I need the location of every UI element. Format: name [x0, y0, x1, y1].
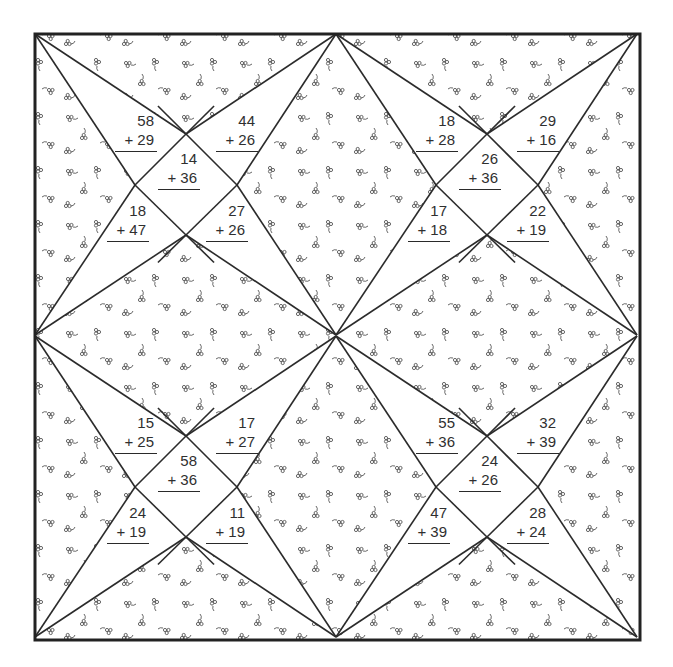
- answer-line: [517, 453, 559, 454]
- addend-bottom: + 39: [517, 432, 559, 451]
- addend-top: 55: [416, 413, 458, 432]
- answer-line: [206, 241, 248, 242]
- addition-problem: 15+ 25: [115, 413, 157, 454]
- answer-line: [158, 189, 200, 190]
- addend-bottom: + 28: [416, 130, 458, 149]
- answer-line: [158, 491, 200, 492]
- addition-problem: 58+ 29: [115, 111, 157, 152]
- addend-bottom: + 26: [216, 130, 258, 149]
- answer-line: [408, 241, 450, 242]
- addend-bottom: + 36: [459, 168, 501, 187]
- answer-line: [107, 241, 149, 242]
- addition-problem: 24+ 19: [107, 503, 149, 544]
- addend-top: 58: [158, 451, 200, 470]
- addend-bottom: + 27: [216, 432, 258, 451]
- addend-bottom: + 26: [459, 470, 501, 489]
- addition-problem: 55+ 36: [416, 413, 458, 454]
- addend-top: 15: [115, 413, 157, 432]
- addend-bottom: + 16: [517, 130, 559, 149]
- answer-line: [115, 453, 157, 454]
- addend-top: 47: [408, 503, 450, 522]
- addend-top: 17: [408, 201, 450, 220]
- answer-line: [459, 491, 501, 492]
- answer-line: [416, 151, 458, 152]
- addition-problem: 22+ 19: [507, 201, 549, 242]
- addition-problem: 17+ 27: [216, 413, 258, 454]
- addend-bottom: + 18: [408, 220, 450, 239]
- addition-problem: 14+ 36: [158, 149, 200, 190]
- answer-line: [216, 453, 258, 454]
- addend-bottom: + 19: [206, 522, 248, 541]
- addend-bottom: + 29: [115, 130, 157, 149]
- addend-bottom: + 19: [107, 522, 149, 541]
- addition-problem: 29+ 16: [517, 111, 559, 152]
- answer-line: [459, 189, 501, 190]
- addend-top: 26: [459, 149, 501, 168]
- addend-bottom: + 39: [408, 522, 450, 541]
- addition-problem: 58+ 36: [158, 451, 200, 492]
- quilt-lines: [0, 0, 673, 667]
- addition-problem: 27+ 26: [206, 201, 248, 242]
- addend-top: 17: [216, 413, 258, 432]
- answer-line: [507, 241, 549, 242]
- answer-line: [416, 453, 458, 454]
- answer-line: [216, 151, 258, 152]
- addend-bottom: + 36: [158, 470, 200, 489]
- addend-top: 27: [206, 201, 248, 220]
- addend-top: 24: [107, 503, 149, 522]
- addend-bottom: + 24: [507, 522, 549, 541]
- addend-bottom: + 26: [206, 220, 248, 239]
- addition-problem: 44+ 26: [216, 111, 258, 152]
- addend-top: 32: [517, 413, 559, 432]
- addition-problem: 28+ 24: [507, 503, 549, 544]
- answer-line: [206, 543, 248, 544]
- answer-line: [408, 543, 450, 544]
- addition-problem: 18+ 28: [416, 111, 458, 152]
- addition-problem: 11+ 19: [206, 503, 248, 544]
- addend-bottom: + 25: [115, 432, 157, 451]
- answer-line: [507, 543, 549, 544]
- addend-top: 11: [206, 503, 248, 522]
- addend-top: 22: [507, 201, 549, 220]
- addition-problem: 17+ 18: [408, 201, 450, 242]
- addend-top: 58: [115, 111, 157, 130]
- addend-bottom: + 36: [158, 168, 200, 187]
- addition-problem: 32+ 39: [517, 413, 559, 454]
- addend-top: 18: [416, 111, 458, 130]
- addend-top: 29: [517, 111, 559, 130]
- addend-top: 18: [107, 201, 149, 220]
- quilt-worksheet: 58+ 2944+ 2614+ 3618+ 4727+ 2618+ 2829+ …: [0, 0, 673, 667]
- addend-bottom: + 19: [507, 220, 549, 239]
- addition-problem: 18+ 47: [107, 201, 149, 242]
- addition-problem: 24+ 26: [459, 451, 501, 492]
- addition-problem: 26+ 36: [459, 149, 501, 190]
- addend-top: 14: [158, 149, 200, 168]
- answer-line: [107, 543, 149, 544]
- addend-top: 24: [459, 451, 501, 470]
- answer-line: [115, 151, 157, 152]
- addition-problem: 47+ 39: [408, 503, 450, 544]
- addend-bottom: + 47: [107, 220, 149, 239]
- addend-top: 28: [507, 503, 549, 522]
- answer-line: [517, 151, 559, 152]
- addend-bottom: + 36: [416, 432, 458, 451]
- addend-top: 44: [216, 111, 258, 130]
